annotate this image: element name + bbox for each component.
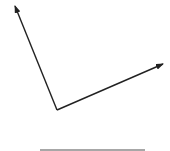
vector-right bbox=[57, 64, 163, 110]
vector-diagram bbox=[0, 0, 170, 151]
vector-up-left bbox=[15, 6, 57, 110]
